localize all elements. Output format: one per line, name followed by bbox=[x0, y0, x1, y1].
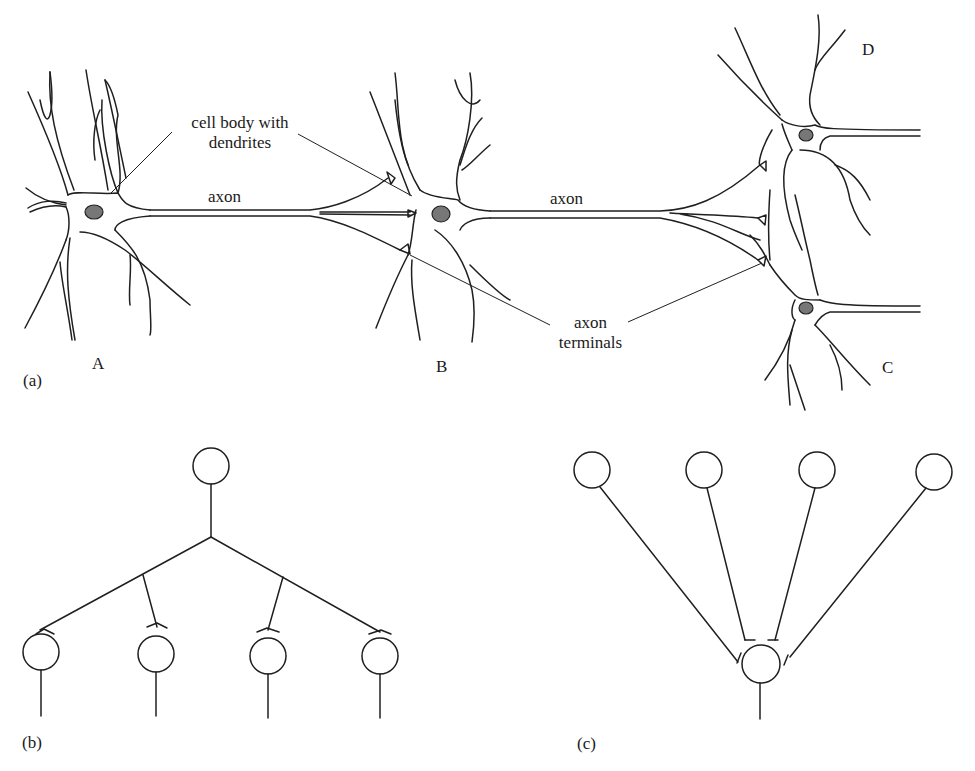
node-b1 bbox=[23, 634, 59, 670]
leader-lines bbox=[110, 132, 762, 325]
node-c3 bbox=[799, 452, 835, 488]
divergence-diagram bbox=[23, 448, 398, 718]
panel-label-c: (c) bbox=[577, 734, 596, 754]
nucleus-d bbox=[799, 129, 813, 141]
node-b4 bbox=[362, 638, 398, 674]
neuron-c bbox=[750, 190, 920, 410]
annotation-cell-body-line1: cell body with bbox=[165, 113, 315, 133]
convergence-diagram bbox=[574, 452, 952, 719]
annotation-terminals-line2: terminals bbox=[548, 333, 633, 353]
nucleus-b bbox=[432, 206, 450, 222]
annotation-terminals-line1: axon bbox=[548, 313, 633, 333]
neuron-label-d: D bbox=[862, 40, 874, 60]
node-c4 bbox=[916, 454, 952, 490]
node-c2 bbox=[686, 452, 722, 488]
neuron-label-b: B bbox=[436, 357, 447, 377]
node-b3 bbox=[250, 638, 286, 674]
panel-label-b: (b) bbox=[22, 733, 42, 753]
nucleus-c bbox=[799, 302, 813, 314]
neuron-label-a: A bbox=[92, 354, 104, 374]
node-c1 bbox=[574, 452, 610, 488]
nucleus-a bbox=[85, 205, 103, 219]
neuron-diagram bbox=[0, 0, 975, 771]
annotation-cell-body-line2: dendrites bbox=[165, 133, 315, 153]
annotation-axon-2: axon bbox=[550, 189, 583, 209]
node-b2 bbox=[138, 636, 174, 672]
panel-label-a: (a) bbox=[23, 371, 42, 391]
annotation-cell-body: cell body with dendrites bbox=[165, 113, 315, 153]
node-top bbox=[193, 448, 229, 484]
node-c-target bbox=[742, 645, 780, 683]
annotation-axon-1: axon bbox=[208, 187, 241, 207]
neuron-d bbox=[718, 15, 920, 250]
annotation-axon-terminals: axon terminals bbox=[548, 313, 633, 353]
neuron-label-c: C bbox=[882, 358, 893, 378]
